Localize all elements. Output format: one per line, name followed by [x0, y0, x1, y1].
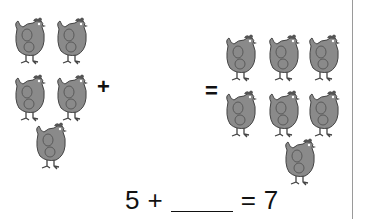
addend: 5 [125, 185, 139, 216]
hen-icon [222, 88, 258, 138]
equation-equals: = [241, 185, 256, 216]
equation-plus: + [147, 185, 162, 216]
hen-icon [305, 88, 341, 138]
plus-sign: + [97, 76, 110, 98]
hen-icon [11, 72, 47, 122]
hen-icon [11, 15, 47, 65]
hen-icon [281, 136, 317, 186]
divider-line [352, 0, 353, 219]
hen-icon [265, 32, 301, 82]
equation: 5 + = 7 [125, 185, 278, 216]
hen-icon [305, 32, 341, 82]
sum: 7 [264, 185, 278, 216]
equals-sign: = [205, 80, 218, 102]
hen-icon [265, 88, 301, 138]
hen-icon [222, 32, 258, 82]
answer-blank[interactable] [171, 210, 233, 212]
hen-icon [53, 15, 89, 65]
hen-icon [53, 72, 89, 122]
hen-icon [32, 120, 68, 170]
